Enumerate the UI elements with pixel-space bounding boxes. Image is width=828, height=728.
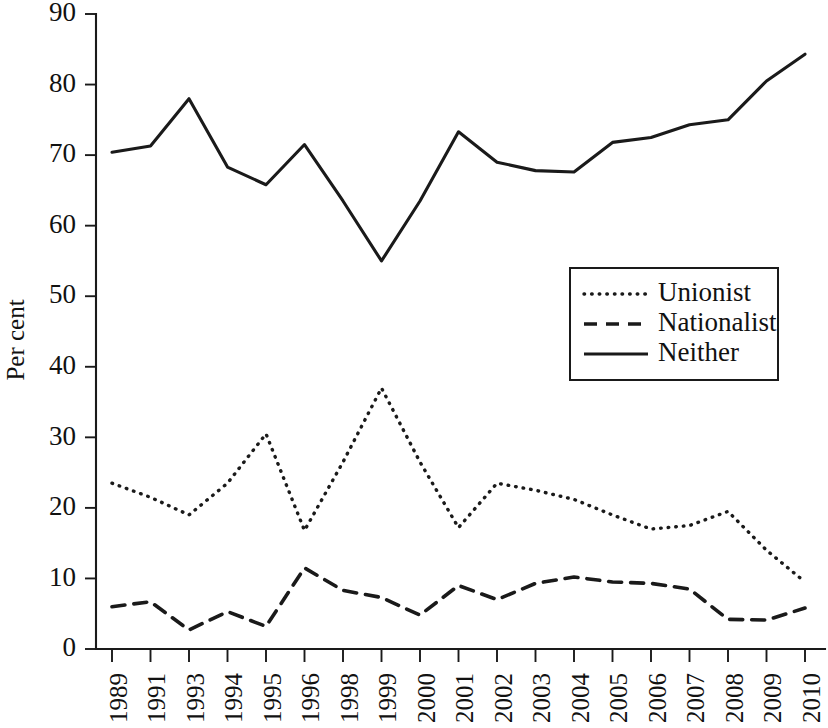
x-tick-label: 2003 <box>528 673 555 723</box>
x-tick-label: 1991 <box>143 673 170 723</box>
x-tick-label: 2009 <box>759 673 786 723</box>
y-tick-label: 30 <box>49 421 76 451</box>
x-tick-label: 1998 <box>336 673 363 723</box>
series-line-unionist <box>112 388 805 582</box>
chart-canvas: 0102030405060708090 19891991199319941995… <box>0 0 828 728</box>
y-tick-label: 80 <box>49 68 76 98</box>
x-tick-label: 1989 <box>105 673 132 723</box>
y-axis-title: Per cent <box>2 299 29 380</box>
x-tick-label: 2008 <box>721 673 748 723</box>
x-tick-label: 2006 <box>644 673 671 723</box>
legend-label-neither: Neither <box>658 337 739 367</box>
y-tick-label: 70 <box>49 138 76 168</box>
x-tick-label: 1994 <box>220 673 247 724</box>
x-tick-label: 2002 <box>490 673 517 723</box>
x-axis: 1989199119931994199519961998199920002001… <box>96 649 825 723</box>
line-chart: 0102030405060708090 19891991199319941995… <box>0 0 828 728</box>
x-tick-label: 1996 <box>297 673 324 723</box>
x-tick-label: 1995 <box>259 673 286 723</box>
x-tick-label: 2001 <box>451 673 478 723</box>
legend-label-nationalist: Nationalist <box>658 307 777 337</box>
x-tick-label: 2005 <box>605 673 632 723</box>
x-tick-label: 1999 <box>374 673 401 723</box>
y-tick-label: 40 <box>49 350 76 380</box>
x-tick-label: 2007 <box>682 673 709 723</box>
y-tick-label: 0 <box>63 632 77 662</box>
y-tick-label: 10 <box>49 562 76 592</box>
y-tick-label: 20 <box>49 491 76 521</box>
chart-legend: UnionistNationalistNeither <box>570 268 778 380</box>
legend-label-unionist: Unionist <box>658 277 752 307</box>
x-tick-label: 2000 <box>413 673 440 723</box>
y-tick-label: 60 <box>49 209 76 239</box>
series-line-neither <box>112 54 805 261</box>
x-tick-label: 2010 <box>798 673 825 723</box>
y-axis: 0102030405060708090 <box>49 0 96 662</box>
y-tick-label: 50 <box>49 279 76 309</box>
x-tick-label: 2004 <box>567 673 594 724</box>
series-line-nationalist <box>112 568 805 630</box>
y-tick-label: 90 <box>49 0 76 27</box>
x-tick-label: 1993 <box>182 673 209 723</box>
